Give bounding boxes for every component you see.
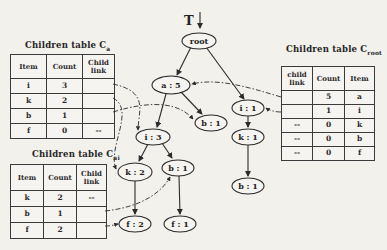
tree-nodes: root a : 5 i : 1 b : 1 i : 3 k : 1 bbox=[118, 33, 264, 232]
table-row: f 0 -- bbox=[11, 124, 115, 139]
children-table-ca: Item Count Child link i 3 k 2 b 1 f 0 -- bbox=[10, 54, 115, 139]
count-cell: 1 bbox=[44, 207, 77, 223]
node-label: i : 3 bbox=[144, 132, 162, 142]
children-table-croot: child link Count Item 5 a 1 i -- 0 k -- … bbox=[281, 66, 375, 161]
table-row: 5 a bbox=[282, 91, 375, 105]
node-k1: k : 1 bbox=[232, 129, 264, 145]
column-header-item: Item bbox=[345, 67, 375, 91]
node-label: f : 1 bbox=[171, 219, 189, 229]
node-ellipse bbox=[152, 76, 190, 94]
node-label: k : 1 bbox=[238, 132, 258, 142]
table-title-subscript: ai bbox=[113, 154, 120, 161]
table-header-row: Item Count Child link bbox=[11, 55, 115, 79]
count-cell: 0 bbox=[47, 124, 83, 139]
column-header-item: Item bbox=[11, 165, 44, 191]
column-header-count: Count bbox=[313, 67, 345, 91]
item-cell: k bbox=[11, 191, 44, 207]
item-cell: b bbox=[11, 207, 44, 223]
column-header-item: Item bbox=[11, 55, 47, 79]
node-i1: i : 1 bbox=[232, 100, 264, 116]
count-cell: 0 bbox=[313, 147, 345, 161]
count-cell: 0 bbox=[313, 119, 345, 133]
count-cell: 1 bbox=[313, 105, 345, 119]
table-row: 1 i bbox=[282, 105, 375, 119]
table-row: -- 0 f bbox=[282, 147, 375, 161]
node-i3: i : 3 bbox=[136, 129, 170, 145]
child-link-cell: -- bbox=[282, 119, 313, 133]
node-b1-right: b : 1 bbox=[232, 178, 264, 194]
node-b1-left: b : 1 bbox=[162, 160, 194, 176]
edge-i3-k2 bbox=[139, 144, 148, 161]
count-cell: 5 bbox=[313, 91, 345, 105]
node-root: root bbox=[182, 33, 216, 49]
child-link-cell bbox=[83, 94, 115, 109]
children-table-cai: Item Count Child link k 2 -- b 1 f 2 bbox=[10, 164, 107, 239]
column-header-count: Count bbox=[44, 165, 77, 191]
item-cell: a bbox=[345, 91, 375, 105]
child-link-cell: -- bbox=[83, 124, 115, 139]
table-title-text: Children table C bbox=[25, 40, 106, 50]
item-cell: f bbox=[345, 147, 375, 161]
tree-edges bbox=[135, 47, 248, 214]
node-ellipse bbox=[182, 33, 216, 49]
node-ellipse bbox=[195, 115, 227, 131]
item-cell: f bbox=[11, 223, 44, 239]
edge-b1-f1 bbox=[179, 176, 180, 214]
node-label: k : 2 bbox=[125, 167, 145, 177]
node-label: i : 1 bbox=[239, 103, 256, 113]
node-ellipse bbox=[232, 129, 264, 145]
item-cell: k bbox=[11, 94, 47, 109]
count-cell: 2 bbox=[44, 223, 77, 239]
node-f1: f : 1 bbox=[164, 216, 196, 232]
count-cell: 0 bbox=[313, 133, 345, 147]
node-a5: a : 5 bbox=[152, 76, 190, 94]
edge-i3-b1 bbox=[162, 143, 172, 158]
edge-a5-i3 bbox=[157, 94, 166, 127]
child-link-cell bbox=[83, 79, 115, 94]
fp-tree-children-tables-diagram: Children table Ca Item Count Child link … bbox=[0, 0, 387, 250]
column-header-count: Count bbox=[47, 55, 83, 79]
transaction-pointer-label: T bbox=[184, 13, 194, 28]
edge-a5-b1 bbox=[181, 92, 202, 114]
table-title-text: Children table C bbox=[286, 44, 367, 54]
table-row: b 1 bbox=[11, 207, 107, 223]
node-ellipse bbox=[119, 216, 151, 232]
table-row: k 2 bbox=[11, 94, 115, 109]
count-cell: 2 bbox=[44, 191, 77, 207]
table-row: -- 0 k bbox=[282, 119, 375, 133]
child-link-cell: -- bbox=[282, 147, 313, 161]
table-row: f 2 bbox=[11, 223, 107, 239]
table-header-row: Item Count Child link bbox=[11, 165, 107, 191]
count-cell: 3 bbox=[47, 79, 83, 94]
node-label: a : 5 bbox=[161, 80, 180, 90]
item-cell: i bbox=[345, 105, 375, 119]
link-croot-i-to-i1 bbox=[266, 108, 281, 112]
table-row: k 2 -- bbox=[11, 191, 107, 207]
table-title-text: Children table C bbox=[32, 149, 113, 159]
node-ellipse bbox=[232, 100, 264, 116]
table-header-row: child link Count Item bbox=[282, 67, 375, 91]
table-title-subscript: a bbox=[106, 45, 110, 52]
child-link-cell: -- bbox=[282, 133, 313, 147]
child-link-cell bbox=[77, 223, 107, 239]
item-cell: i bbox=[11, 79, 47, 94]
node-ellipse bbox=[164, 216, 196, 232]
item-cell: b bbox=[11, 109, 47, 124]
child-link-cell bbox=[77, 207, 107, 223]
node-ellipse bbox=[232, 178, 264, 194]
table-row: -- 0 b bbox=[282, 133, 375, 147]
node-ellipse bbox=[136, 129, 170, 145]
children-table-cai-title: Children table Cai bbox=[32, 149, 120, 161]
node-ellipse bbox=[162, 160, 194, 176]
node-label: b : 1 bbox=[201, 118, 221, 128]
edge-root-i1 bbox=[206, 47, 244, 99]
node-b1-mid: b : 1 bbox=[195, 115, 227, 131]
link-ca-i-to-i3 bbox=[113, 84, 140, 130]
link-croot-a-to-a5 bbox=[192, 82, 281, 97]
child-link-cell bbox=[83, 109, 115, 124]
node-label: f : 2 bbox=[126, 219, 144, 229]
node-label: root bbox=[190, 36, 209, 46]
item-cell: b bbox=[345, 133, 375, 147]
child-link-cell: -- bbox=[77, 191, 107, 207]
column-header-child-link: Child link bbox=[77, 165, 107, 191]
